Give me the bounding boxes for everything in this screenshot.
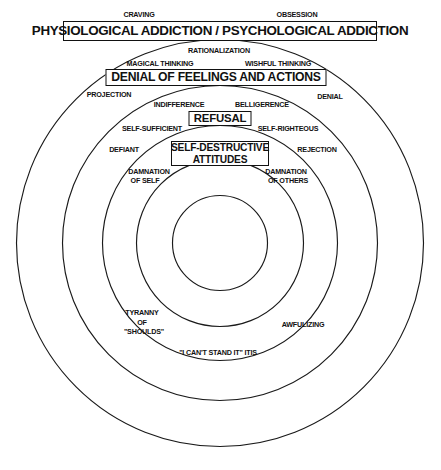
ring-outer-1 <box>17 40 424 447</box>
label-wishful-thinking: WISHFUL THINKING <box>245 60 311 68</box>
label-belligerence: BELLIGERENCE <box>235 101 289 109</box>
label-damnation-of-self-line2: OF SELF <box>131 177 160 185</box>
label-obsession: OBSESSION <box>277 11 318 19</box>
label-craving: CRAVING <box>123 11 154 19</box>
banner-sda-line2: ATTITUDES <box>193 154 248 165</box>
banner-refusal: REFUSAL <box>189 111 252 126</box>
banner-physiological-psychological-addiction: PHYSIOLOGICAL ADDICTION / PSYCHOLOGICAL … <box>63 21 377 41</box>
label-tyranny-line3: "SHOULDS" <box>124 328 164 336</box>
label-rationalization: RATIONALIZATION <box>188 47 250 55</box>
label-awfulizing: AWFULIZING <box>282 321 325 329</box>
label-magical-thinking: MAGICAL THINKING <box>127 60 194 68</box>
banner-denial-of-feelings-and-actions: DENIAL OF FEELINGS AND ACTIONS <box>106 69 327 86</box>
label-tyranny-line1: TYRANNY <box>125 309 158 317</box>
label-defiant: DEFIANT <box>109 146 139 154</box>
label-tyranny-line2: OF <box>137 319 147 327</box>
addiction-rings-diagram: CRAVING OBSESSION PHYSIOLOGICAL ADDICTIO… <box>0 0 441 470</box>
label-self-righteous: SELF-RIGHTEOUS <box>258 125 319 133</box>
label-denial: DENIAL <box>317 93 343 101</box>
banner-self-destructive-attitudes: SELF-DESTRUCTIVE ATTITUDES <box>171 141 269 166</box>
label-indifference: INDIFFERENCE <box>154 101 205 109</box>
label-projection: PROJECTION <box>87 91 132 99</box>
label-rejection: REJECTION <box>297 146 336 154</box>
banner-sda-line1: SELF-DESTRUCTIVE <box>171 142 269 153</box>
ring-core-5 <box>173 196 268 291</box>
label-damnation-of-others-line2: OF OTHERS <box>268 177 308 185</box>
label-damnation-of-self-line1: DAMNATION <box>128 168 170 176</box>
label-self-sufficient: SELF-SUFFICIENT <box>122 125 182 133</box>
label-damnation-of-others-line1: DAMNATION <box>265 168 307 176</box>
label-i-cant-stand-it-itis: "I CAN'T STAND IT" ITIS <box>179 349 257 357</box>
